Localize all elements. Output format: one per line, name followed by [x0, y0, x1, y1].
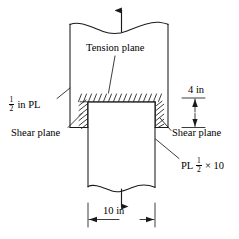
label-shear-plane-left: Shear plane	[11, 128, 60, 139]
leader-shear-right	[160, 118, 171, 131]
label-dimension-10in: 10 in	[103, 206, 124, 217]
label-plate-suffix: × 10	[202, 160, 224, 171]
shear-plane-hatch-left	[79, 100, 88, 129]
leader-pl-half-x-10	[156, 139, 180, 159]
label-dimension-4in: 4 in	[188, 85, 204, 96]
vertical-dimension-4in	[182, 98, 205, 128]
label-plate-half-by-ten: PL 12 × 10	[181, 157, 224, 174]
block-shear-plate-connection-diagram: Tension plane 12 in PL Shear plane Shear…	[0, 0, 239, 239]
diagram-canvas	[0, 0, 239, 239]
label-half-inch-plate-suffix: in PL	[15, 99, 41, 110]
upper-plate-break-line	[70, 22, 168, 34]
leader-tension-plane	[109, 56, 116, 93]
fraction-one-half-2: 12	[196, 157, 202, 174]
label-shear-plane-right: Shear plane	[172, 128, 221, 139]
fraction-one-half: 12	[9, 96, 15, 113]
leader-half-in-pl	[57, 88, 70, 99]
tension-plane-hatch	[79, 94, 162, 102]
label-tension-plane: Tension plane	[86, 43, 144, 54]
label-half-inch-plate: 12 in PL	[8, 96, 40, 113]
label-plate-prefix: PL	[181, 160, 196, 171]
shear-plane-hatch-right	[155, 101, 163, 127]
